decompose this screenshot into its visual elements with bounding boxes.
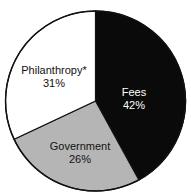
- pie-chart-figure: Fees 42% Philanthropy* 31% Government 26…: [0, 0, 191, 194]
- pie-chart-svg: [0, 0, 191, 194]
